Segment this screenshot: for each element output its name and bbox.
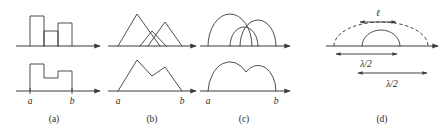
panel-d-dashed-arc [334,22,428,46]
figure-container: a b (a) a b (b) [0,0,443,130]
panel-b-label-b: b [180,96,185,106]
panel-c-envelope [208,62,276,91]
panel-d: ℓ λ/2 λ/2 (d) [326,8,438,125]
panel-a-label-b: b [70,96,75,106]
panel-b: a b (b) [108,14,196,125]
panel-c-label-b: b [274,96,279,106]
panel-a-rectangle-3 [58,23,72,46]
panel-b-triangle-3 [148,22,182,46]
panel-a-rectangle-1 [30,16,44,46]
envelope-figure: a b (a) a b (b) [0,0,443,130]
panel-d-half-wavelength-label-2: λ/2 [385,79,398,89]
panel-c-bottom-row: a b [200,62,290,106]
panel-a-envelope [30,64,72,91]
panel-d-caption: (d) [376,114,387,125]
panel-c-label-a: a [206,96,211,106]
panel-a-rectangle-2 [44,31,58,46]
panel-d-length-label: ℓ [376,8,380,18]
panel-d-half-wavelength-label-1: λ/2 [359,59,372,69]
panel-b-bottom-row: a b [108,60,196,106]
panel-b-triangle-1 [118,14,160,46]
panel-d-solid-arc [362,30,400,46]
panel-b-envelope [118,60,182,91]
panel-a-label-a: a [28,96,33,106]
panel-a-caption: (a) [49,114,60,125]
panel-b-label-a: a [116,96,121,106]
panel-b-caption: (b) [146,114,157,125]
panel-c: a b (c) [200,14,290,125]
panel-c-top-row [200,14,290,46]
panel-c-caption: (c) [239,114,250,125]
panel-b-top-row [108,14,196,46]
panel-a: a b (a) [16,16,100,125]
panel-a-bottom-row: a b [16,64,100,106]
panel-a-top-row [16,16,100,46]
